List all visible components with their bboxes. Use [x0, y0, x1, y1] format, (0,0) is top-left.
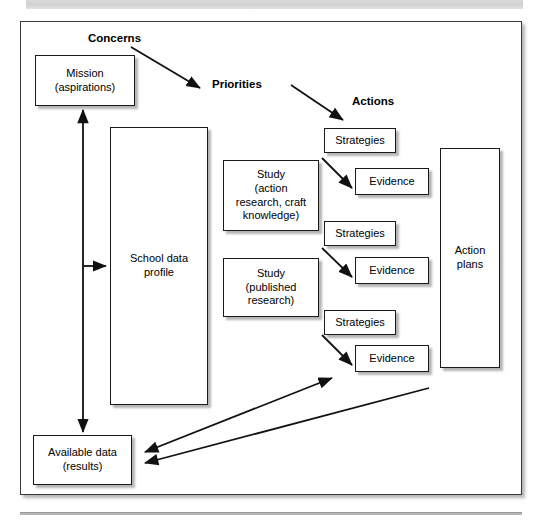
node-action-plans: Action plans: [440, 148, 500, 368]
node-strategies-1: Strategies: [324, 128, 396, 153]
page-bottom-rule: [20, 512, 522, 515]
node-strategies-2: Strategies: [324, 221, 396, 246]
scan-top-band: [26, 0, 523, 9]
figure-page: Concerns Priorities Actions Mission (asp…: [0, 0, 541, 524]
heading-actions: Actions: [352, 95, 394, 107]
node-mission: Mission (aspirations): [35, 55, 135, 106]
node-study-published-research: Study (published research): [223, 258, 319, 317]
heading-priorities: Priorities: [212, 78, 262, 90]
node-strategies-3: Strategies: [324, 310, 396, 335]
node-evidence-3: Evidence: [355, 345, 429, 372]
node-study-action-research: Study (action research, craft knowledge): [223, 160, 319, 231]
node-school-data-profile: School data profile: [110, 127, 208, 405]
node-available-data: Available data (results): [33, 435, 132, 485]
heading-concerns: Concerns: [88, 32, 141, 44]
node-evidence-1: Evidence: [355, 168, 429, 195]
node-evidence-2: Evidence: [355, 257, 429, 284]
